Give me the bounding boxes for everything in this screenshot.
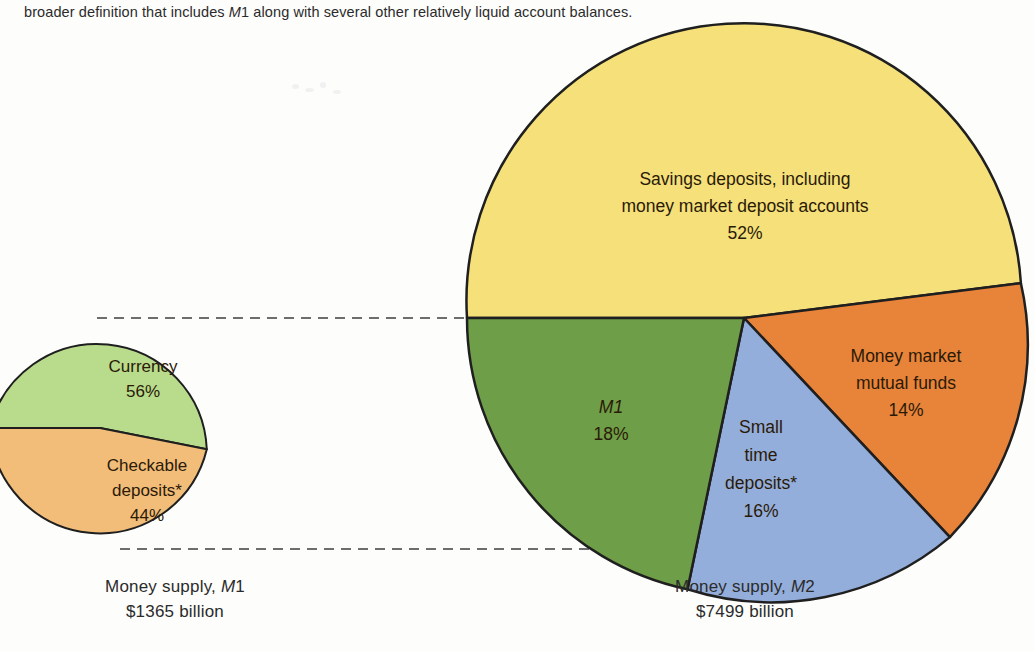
m2-label-mmmf-pct: 14% — [888, 400, 923, 420]
m2-label-savings-line1: Savings deposits, including — [639, 169, 850, 189]
caption-m1: Money supply, M1 $1365 billion — [30, 574, 320, 624]
pie-figure-svg: Currency 56% Checkable deposits* 44% Sav… — [0, 0, 1034, 652]
caption-m1-title: Money supply, M1 — [30, 574, 320, 599]
caption-m1-italic: M — [221, 577, 235, 596]
m2-label-savings-pct: 52% — [727, 223, 762, 243]
caption-m1-prefix: Money supply, — [105, 577, 221, 596]
m1-label-checkable-pct: 44% — [130, 506, 164, 525]
caption-m1-amount: $1365 billion — [30, 599, 320, 624]
m2-label-m1-pct: 18% — [593, 424, 628, 444]
m2-label-std-line3: deposits* — [725, 473, 797, 493]
caption-m2-title: Money supply, M2 — [600, 574, 890, 599]
caption-m2-amount: $7499 billion — [600, 599, 890, 624]
m2-label-m1-name: M1 — [599, 397, 623, 417]
caption-m1-tail: 1 — [235, 577, 245, 596]
m2-label-std-line1: Small — [739, 417, 783, 437]
m2-pie-chart: Savings deposits, including money market… — [466, 23, 1027, 602]
m2-label-std-pct: 16% — [743, 501, 778, 521]
m2-label-savings-line2: money market deposit accounts — [621, 196, 868, 216]
m1-label-currency-name: Currency — [109, 357, 178, 376]
caption-m2-prefix: Money supply, — [675, 577, 791, 596]
m1-pie-chart: Currency 56% Checkable deposits* 44% — [0, 344, 207, 533]
m2-label-mmmf-line2: mutual funds — [856, 373, 956, 393]
figure-root: broader definition that includes M1 alon… — [0, 0, 1034, 652]
m1-label-checkable-name2: deposits* — [112, 481, 182, 500]
m1-label-currency-pct: 56% — [126, 382, 160, 401]
m1-label-checkable-name: Checkable — [107, 456, 187, 475]
m2-label-std-line2: time — [744, 445, 777, 465]
m2-label-mmmf-line1: Money market — [851, 346, 962, 366]
caption-m2-italic: M — [791, 577, 805, 596]
caption-m2: Money supply, M2 $7499 billion — [600, 574, 890, 624]
caption-m2-tail: 2 — [805, 577, 815, 596]
